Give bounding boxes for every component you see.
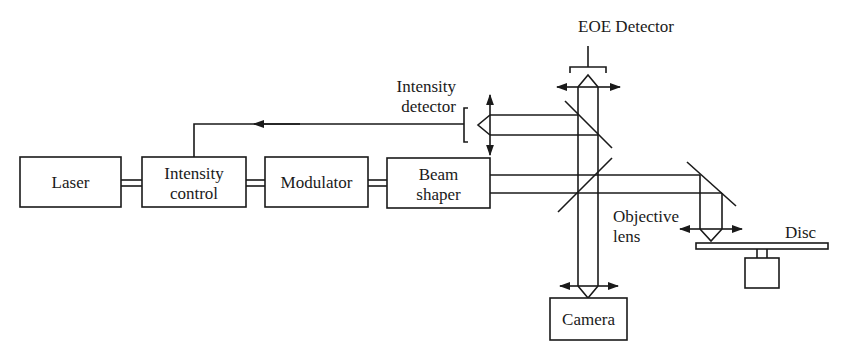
eoe-detector-bracket — [570, 67, 606, 73]
modulator-label: Modulator — [281, 173, 353, 192]
beam-splitter — [558, 158, 612, 212]
intensity-detector-label-2: detector — [401, 97, 456, 116]
disc-label: Disc — [785, 223, 817, 242]
disc-assembly: Disc — [696, 223, 828, 288]
intensity-detector-bracket — [464, 108, 468, 142]
connector-laser-intensity — [121, 180, 142, 186]
intensity-detector: Intensity detector — [397, 77, 491, 155]
intensity-detector-lens — [478, 115, 490, 135]
camera-label: Camera — [562, 310, 615, 329]
eoe-detector: EOE Detector — [557, 17, 674, 87]
intensity-control-block: Intensity control — [142, 157, 246, 207]
disc — [696, 243, 828, 249]
beam-shaper-label-1: Beam — [419, 165, 459, 184]
intensity-detector-label-1: Intensity — [397, 77, 457, 96]
laser-label: Laser — [52, 173, 90, 192]
optical-setup-diagram: Laser Intensity control Modulator Beam s… — [0, 0, 850, 361]
intensity-control-label-2: control — [170, 184, 218, 203]
camera-assembly: Camera — [550, 286, 627, 340]
pickoff-mirror — [565, 101, 612, 148]
connector-intensity-modulator — [246, 180, 265, 186]
camera-lens — [578, 286, 598, 298]
connector-modulator-beamshaper — [368, 180, 387, 186]
objective-label-2: lens — [613, 227, 640, 246]
intensity-control-label-1: Intensity — [164, 164, 224, 183]
objective-lens: Objective lens — [613, 175, 742, 246]
folding-mirror — [687, 162, 736, 206]
beam-shaper-block: Beam shaper — [387, 158, 490, 208]
objective-label-1: Objective — [613, 207, 679, 226]
beam-shaper-label-2: shaper — [416, 185, 461, 204]
modulator-block: Modulator — [265, 157, 368, 207]
eoe-detector-label: EOE Detector — [578, 17, 674, 36]
eoe-lens — [578, 75, 598, 87]
motor-block — [745, 258, 779, 288]
objective-lens-shape — [700, 229, 722, 241]
laser-block: Laser — [20, 157, 121, 207]
feedback-line — [194, 124, 464, 157]
